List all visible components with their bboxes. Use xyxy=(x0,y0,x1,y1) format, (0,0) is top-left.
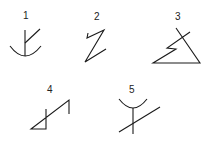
glyph-2-zigzag-symbol xyxy=(85,30,106,62)
glyph-5-cup-cross-symbol xyxy=(119,99,160,134)
glyph-diagram: 1 2 3 4 5 xyxy=(0,0,214,144)
glyphs-canvas xyxy=(0,0,214,144)
glyph-4-step-symbol xyxy=(31,100,69,129)
glyph-1-anchor-symbol xyxy=(10,29,41,56)
glyph-3-triangle-bolt-symbol xyxy=(153,28,200,63)
